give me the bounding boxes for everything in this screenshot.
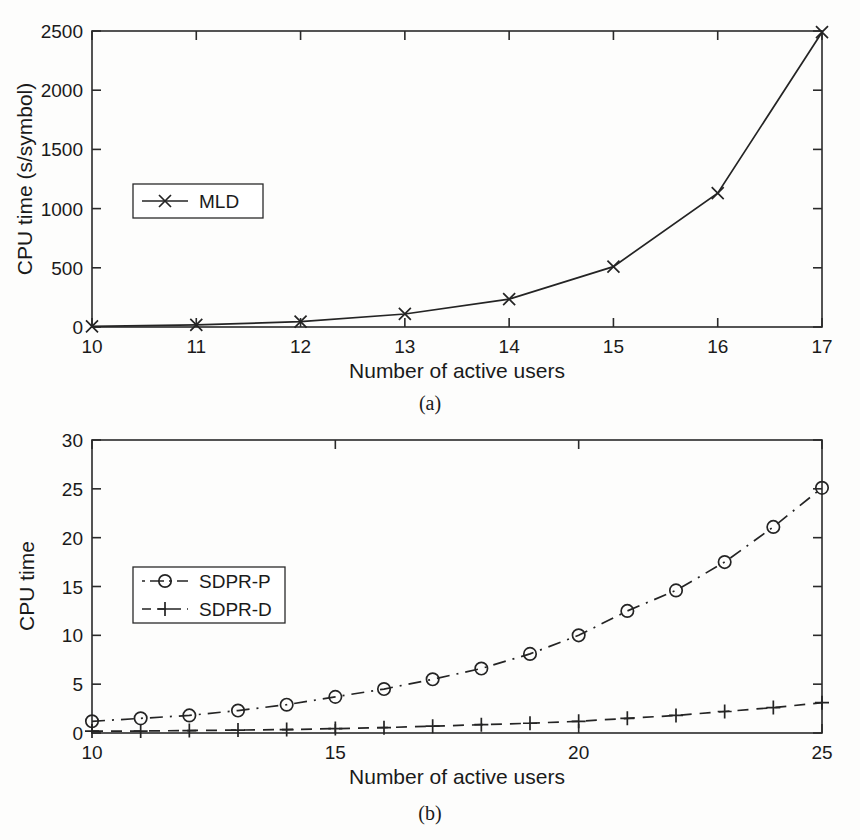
figure-page: 101112131415161705001000150020002500CPU … (0, 0, 860, 840)
data-point-marker-plus (231, 723, 245, 737)
y-tick-label: 2500 (41, 21, 83, 42)
data-point-marker-circle (767, 521, 779, 533)
series-path (92, 32, 822, 326)
data-point-marker-circle (621, 605, 633, 617)
data-point-marker-plus (182, 724, 196, 738)
data-point-marker-circle (426, 673, 438, 685)
panel-caption: (b) (418, 802, 441, 825)
series-path (92, 703, 822, 731)
data-point-marker-plus (766, 701, 780, 715)
data-point-marker-x (712, 187, 724, 199)
legend[interactable]: SDPR-PSDPR-D (133, 567, 285, 623)
series-mld (86, 26, 828, 332)
x-tick-label: 20 (568, 742, 589, 763)
legend-label: SDPR-P (199, 571, 271, 592)
y-tick-label: 500 (51, 258, 83, 279)
data-point-marker-plus (523, 716, 537, 730)
chart-svg-a: 101112131415161705001000150020002500CPU … (0, 0, 860, 420)
y-tick-label: 5 (72, 674, 83, 695)
data-point-marker-x (607, 261, 619, 273)
y-axis: 05001000150020002500 (41, 21, 822, 338)
data-point-marker-plus (669, 708, 683, 722)
data-point-marker-plus (815, 696, 829, 710)
chart-svg-b: 10152025051015202530CPU timeNumber of ac… (0, 420, 860, 840)
legend-label: SDPR-D (199, 599, 272, 620)
y-tick-label: 10 (62, 625, 83, 646)
panel-caption: (a) (419, 392, 441, 415)
y-tick-label: 15 (62, 577, 83, 598)
y-tick-label: 2000 (41, 80, 83, 101)
data-point-marker-plus (620, 711, 634, 725)
y-tick-label: 30 (62, 430, 83, 451)
data-point-marker-plus (572, 714, 586, 728)
x-tick-label: 11 (186, 336, 206, 357)
x-axis-label: Number of active users (349, 765, 565, 788)
y-tick-label: 20 (62, 528, 83, 549)
y-tick-label: 0 (72, 317, 83, 338)
x-tick-label: 13 (394, 336, 415, 357)
x-tick-label: 25 (811, 742, 832, 763)
y-axis-label: CPU time (s/symbol) (13, 83, 36, 276)
data-point-marker-circle (134, 712, 146, 724)
data-point-marker-plus (426, 719, 440, 733)
x-tick-label: 14 (499, 336, 521, 357)
legend[interactable]: MLD (133, 184, 263, 218)
y-tick-label: 1000 (41, 199, 83, 220)
series-sdpr-d (85, 696, 829, 738)
x-tick-label: 17 (811, 336, 832, 357)
legend-label: MLD (199, 191, 239, 212)
data-point-marker-circle (670, 584, 682, 596)
data-point-marker-plus (474, 718, 488, 732)
y-tick-label: 0 (72, 723, 83, 744)
plot-frame (92, 31, 822, 327)
x-tick-label: 12 (290, 336, 311, 357)
y-tick-label: 1500 (41, 139, 83, 160)
x-axis-label: Number of active users (349, 359, 565, 382)
chart-panel-b: 10152025051015202530CPU timeNumber of ac… (0, 420, 860, 840)
x-tick-label: 15 (325, 742, 346, 763)
x-tick-label: 15 (603, 336, 624, 357)
data-point-marker-plus (718, 705, 732, 719)
y-tick-label: 25 (62, 479, 83, 500)
data-point-marker-plus (280, 723, 294, 737)
x-tick-label: 10 (81, 742, 102, 763)
data-point-marker-plus (134, 724, 148, 738)
x-tick-label: 16 (707, 336, 728, 357)
y-axis-label: CPU time (15, 541, 38, 631)
chart-panel-a: 101112131415161705001000150020002500CPU … (0, 0, 860, 420)
x-tick-label: 10 (81, 336, 102, 357)
data-point-marker-circle (475, 662, 487, 674)
